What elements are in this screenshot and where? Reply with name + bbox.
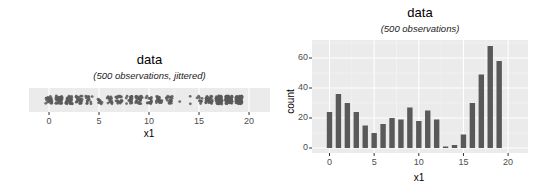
strip-x-tick-label: 20: [234, 116, 264, 126]
strip-point: [156, 97, 159, 100]
strip-point: [166, 95, 169, 98]
strip-point: [196, 97, 199, 100]
bar: [327, 112, 332, 148]
strip-point: [57, 102, 60, 105]
strip-point: [55, 99, 58, 102]
strip-point: [79, 101, 82, 104]
strip-point: [54, 102, 57, 105]
strip-point: [235, 95, 238, 98]
strip-point: [81, 98, 84, 101]
bar-chart-subtitle: (500 observations): [312, 23, 528, 34]
strip-point: [86, 102, 89, 105]
strip-point: [239, 100, 242, 103]
strip-point: [60, 96, 63, 99]
bar-y-tick-label: 60: [278, 52, 308, 62]
strip-point: [198, 100, 201, 103]
bar-chart-title: data: [312, 5, 528, 20]
strip-point: [87, 95, 90, 98]
bar: [416, 121, 421, 148]
strip-point: [91, 95, 94, 98]
bar: [363, 126, 368, 149]
strip-point: [47, 96, 50, 99]
bar: [345, 103, 350, 148]
strip-point: [60, 102, 63, 105]
strip-point: [76, 98, 79, 101]
strip-point: [116, 99, 119, 102]
strip-x-tick-label: 5: [84, 116, 114, 126]
strip-point: [141, 96, 144, 99]
strip-point: [155, 101, 158, 104]
bar: [389, 118, 394, 148]
strip-point: [55, 95, 58, 98]
strip-point: [169, 96, 172, 99]
strip-point: [134, 101, 137, 104]
strip-point: [130, 102, 133, 105]
strip-point: [89, 101, 92, 104]
strip-point: [220, 96, 223, 99]
strip-point: [168, 102, 171, 105]
strip-point: [216, 102, 219, 105]
strip-point: [169, 99, 172, 102]
strip-point: [205, 100, 208, 103]
strip-point: [137, 102, 140, 105]
strip-point: [225, 99, 228, 102]
strip-point: [76, 96, 79, 99]
bar-chart-xlabel: x1: [409, 172, 429, 183]
strip-point: [224, 95, 227, 98]
strip-point: [229, 101, 232, 104]
bar-x-tick-label: 15: [448, 157, 478, 167]
strip-point: [229, 96, 232, 99]
strip-point: [209, 95, 212, 98]
bar-chart-ylabel: count: [285, 89, 296, 113]
strip-point: [166, 99, 169, 102]
strip-point: [100, 103, 103, 106]
strip-point: [110, 101, 113, 104]
bar: [398, 120, 403, 149]
bar: [407, 108, 412, 149]
strip-point: [108, 96, 111, 99]
strip-x-tick-label: 10: [134, 116, 164, 126]
strip-point: [45, 97, 48, 100]
bar-x-tick-label: 10: [404, 157, 434, 167]
bar: [425, 111, 430, 149]
bar: [434, 120, 439, 149]
bar: [461, 135, 466, 149]
strip-point: [116, 96, 119, 99]
bar: [443, 147, 448, 149]
strip-point: [127, 99, 130, 102]
strip-point: [189, 95, 192, 98]
bar: [470, 103, 475, 148]
strip-point: [139, 98, 142, 101]
strip-point: [210, 100, 213, 103]
strip-point: [50, 99, 53, 102]
strip-point: [139, 102, 142, 105]
bar: [452, 145, 457, 148]
strip-point: [135, 96, 138, 99]
strip-point: [235, 99, 238, 102]
strip-point: [67, 96, 70, 99]
bar-y-tick-label: 40: [278, 82, 308, 92]
strip-point: [189, 102, 192, 105]
strip-point: [81, 95, 84, 98]
strip-point: [125, 102, 128, 105]
strip-x-tick-label: 15: [184, 116, 214, 126]
strip-point: [48, 99, 51, 102]
strip-point: [199, 102, 202, 105]
bar-x-tick-label: 5: [359, 157, 389, 167]
strip-point: [131, 97, 134, 100]
strip-point: [219, 100, 222, 103]
strip-point: [201, 97, 204, 100]
strip-point: [206, 95, 209, 98]
strip-point: [84, 95, 87, 98]
strip-point: [148, 101, 151, 104]
bar: [380, 124, 385, 148]
strip-point: [68, 99, 71, 102]
strip-point: [146, 95, 149, 98]
bar-x-tick-label: 20: [493, 157, 523, 167]
bar: [371, 133, 376, 148]
bar: [354, 112, 359, 148]
strip-point: [49, 102, 52, 105]
bar-x-tick-label: 0: [315, 157, 345, 167]
bar-y-tick-label: 0: [278, 142, 308, 152]
strip-point: [160, 100, 163, 103]
